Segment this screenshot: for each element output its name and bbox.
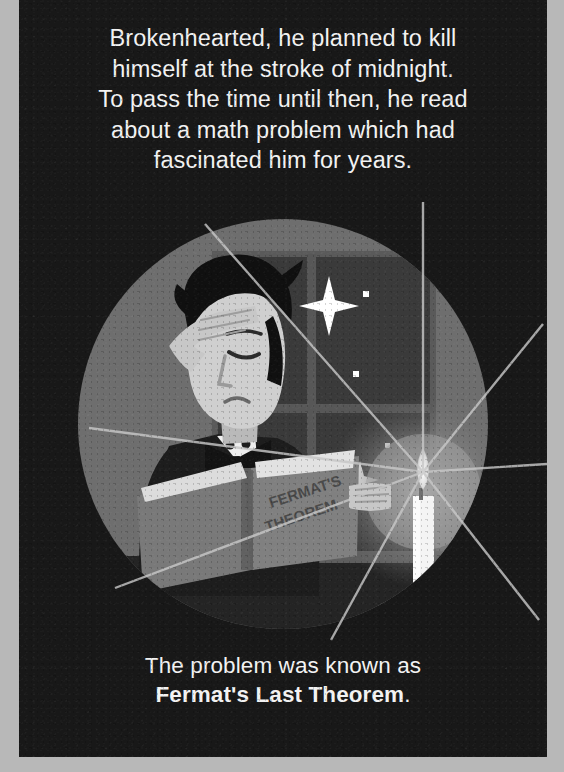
top-caption-line-4: about a math problem which had: [19, 115, 547, 146]
top-caption-line-3: To pass the time until then, he read: [19, 84, 547, 115]
dark-panel: Brokenhearted, he planned to kill himsel…: [19, 0, 547, 757]
top-caption-line-5: fascinated him for years.: [19, 145, 547, 176]
illustration: FERMAT'S THEOREM: [19, 196, 547, 646]
bottom-caption-line-1: The problem was known as: [19, 651, 547, 680]
top-caption: Brokenhearted, he planned to kill himsel…: [19, 23, 547, 176]
candle-wick: [419, 488, 423, 500]
comic-panel-page: Brokenhearted, he planned to kill himsel…: [0, 0, 564, 772]
top-caption-line-1: Brokenhearted, he planned to kill: [19, 23, 547, 54]
bottom-caption-period: .: [404, 682, 410, 707]
holder-ring: [463, 582, 489, 612]
top-caption-line-2: himself at the stroke of midnight.: [19, 54, 547, 85]
fermats-last-theorem-label: Fermat's Last Theorem: [155, 682, 404, 707]
bottom-caption: The problem was known as Fermat's Last T…: [19, 651, 547, 710]
bottom-caption-line-2: Fermat's Last Theorem.: [19, 680, 547, 709]
